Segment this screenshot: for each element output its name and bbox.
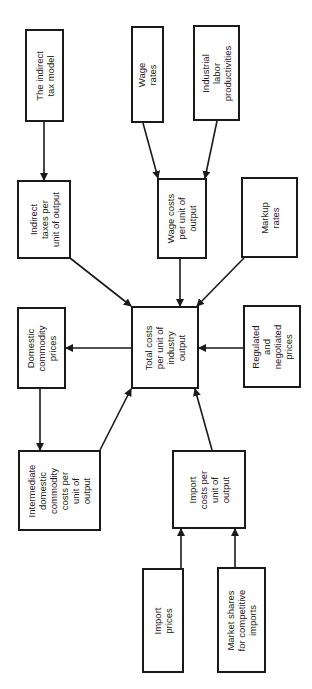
node-intermediate-domestic-costs: Intermediate domestic commodity costs pe… bbox=[18, 450, 101, 531]
flow-diagram: The indirect tax model Indirect taxes pe… bbox=[0, 0, 312, 689]
node-industrial-labor-productivities: Industrial labor productivities bbox=[193, 25, 240, 121]
node-label: Markup rates bbox=[259, 202, 281, 234]
node-import-costs-per-unit: Import costs per unit of output bbox=[172, 450, 246, 529]
node-wage-costs-per-unit: Wage costs per unit of output bbox=[157, 178, 207, 259]
node-indirect-taxes-per-unit: Indirect taxes per unit of output bbox=[17, 180, 71, 259]
arrow-indirect_taxes-to-total_costs bbox=[70, 258, 131, 306]
node-label: Indirect taxes per unit of output bbox=[28, 192, 61, 247]
node-label: Wage rates bbox=[137, 62, 159, 86]
node-label: Wage costs per unit of output bbox=[166, 194, 199, 243]
node-regulated-negotiated-prices: Regulated and negotiated prices bbox=[243, 305, 301, 388]
arrow-markup_rates-to-total_costs bbox=[197, 258, 244, 306]
node-import-prices: Import prices bbox=[142, 568, 184, 673]
node-label: Domestic commodity prices bbox=[25, 325, 58, 371]
node-label: Import prices bbox=[152, 607, 174, 634]
arrow-import_costs-to-total_costs bbox=[195, 389, 212, 450]
node-label: Regulated and negotiated prices bbox=[250, 324, 294, 368]
node-label: Import costs per unit of output bbox=[187, 470, 231, 509]
arrow-wage_rates-to-wage_costs bbox=[143, 123, 158, 178]
arrow-intermediate_costs-to-total_costs bbox=[100, 389, 131, 450]
arrow-labor_productivities-to-wage_costs bbox=[205, 121, 217, 178]
node-label: Intermediate domestic commodity costs pe… bbox=[27, 464, 93, 517]
node-indirect-tax-model: The indirect tax model bbox=[25, 29, 64, 122]
node-markup-rates: Markup rates bbox=[241, 177, 298, 258]
node-wage-rates: Wage rates bbox=[131, 26, 164, 123]
node-label: Market shares for competitive imports bbox=[225, 589, 258, 651]
node-label: Total costs per unit of industry output bbox=[143, 325, 187, 370]
node-label: Industrial labor productivities bbox=[200, 45, 233, 100]
node-market-shares: Market shares for competitive imports bbox=[217, 567, 266, 673]
node-total-costs-per-unit: Total costs per unit of industry output bbox=[131, 306, 199, 389]
node-domestic-commodity-prices: Domestic commodity prices bbox=[17, 307, 66, 389]
node-label: The indirect tax model bbox=[34, 51, 56, 101]
